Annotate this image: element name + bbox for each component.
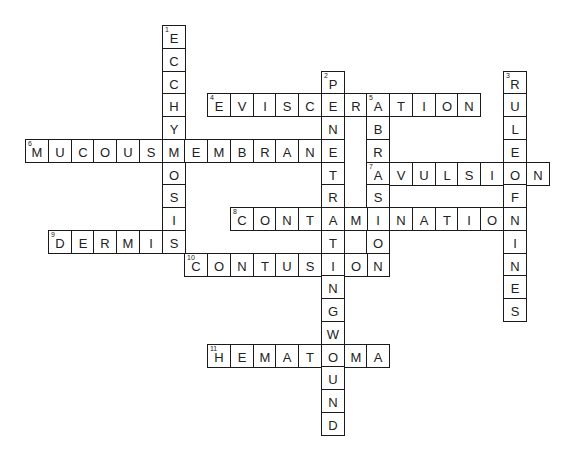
- crossword-cell[interactable]: T: [321, 162, 345, 186]
- crossword-cell[interactable]: 10C: [184, 253, 208, 277]
- crossword-cell[interactable]: R: [93, 230, 117, 254]
- crossword-cell[interactable]: S: [457, 162, 481, 186]
- crossword-cell[interactable]: I: [503, 230, 527, 254]
- crossword-cell[interactable]: I: [162, 207, 186, 231]
- crossword-cell[interactable]: N: [230, 253, 254, 277]
- crossword-cell[interactable]: T: [321, 230, 345, 254]
- crossword-cell[interactable]: N: [457, 93, 481, 117]
- crossword-cell[interactable]: U: [48, 139, 72, 163]
- crossword-cell[interactable]: N: [298, 139, 322, 163]
- crossword-cell[interactable]: A: [412, 207, 436, 231]
- crossword-cell[interactable]: Y: [162, 116, 186, 140]
- crossword-cell[interactable]: S: [162, 184, 186, 208]
- crossword-cell[interactable]: S: [298, 253, 322, 277]
- crossword-cell[interactable]: V: [230, 93, 254, 117]
- crossword-cell[interactable]: M: [344, 207, 368, 231]
- crossword-cell[interactable]: E: [321, 93, 345, 117]
- crossword-cell[interactable]: C: [71, 139, 95, 163]
- crossword-cell[interactable]: S: [366, 184, 390, 208]
- crossword-cell[interactable]: O: [93, 139, 117, 163]
- crossword-cell[interactable]: R: [321, 184, 345, 208]
- crossword-cell[interactable]: T: [389, 93, 413, 117]
- crossword-cell[interactable]: O: [253, 207, 277, 231]
- crossword-cell[interactable]: 3R: [503, 71, 527, 95]
- crossword-cell[interactable]: 9D: [48, 230, 72, 254]
- crossword-cell[interactable]: O: [503, 162, 527, 186]
- crossword-cell[interactable]: E: [184, 139, 208, 163]
- crossword-cell[interactable]: A: [275, 344, 299, 368]
- crossword-cell[interactable]: T: [253, 253, 277, 277]
- crossword-cell[interactable]: 2P: [321, 71, 345, 95]
- crossword-cell[interactable]: N: [321, 389, 345, 413]
- crossword-cell[interactable]: M: [162, 139, 186, 163]
- crossword-cell[interactable]: E: [503, 275, 527, 299]
- crossword-cell[interactable]: I: [412, 93, 436, 117]
- crossword-cell[interactable]: D: [321, 412, 345, 436]
- crossword-cell[interactable]: M: [116, 230, 140, 254]
- crossword-cell[interactable]: O: [435, 93, 459, 117]
- crossword-cell[interactable]: I: [366, 207, 390, 231]
- crossword-cell[interactable]: O: [162, 162, 186, 186]
- crossword-cell[interactable]: S: [139, 139, 163, 163]
- crossword-cell[interactable]: U: [412, 162, 436, 186]
- crossword-cell[interactable]: I: [253, 93, 277, 117]
- crossword-cell[interactable]: N: [321, 116, 345, 140]
- crossword-cell[interactable]: O: [344, 253, 368, 277]
- crossword-cell[interactable]: U: [503, 93, 527, 117]
- crossword-cell[interactable]: A: [321, 207, 345, 231]
- crossword-cell[interactable]: O: [480, 207, 504, 231]
- crossword-cell[interactable]: I: [480, 162, 504, 186]
- crossword-cell[interactable]: R: [253, 139, 277, 163]
- crossword-cell[interactable]: S: [503, 298, 527, 322]
- crossword-cell[interactable]: T: [435, 207, 459, 231]
- crossword-cell[interactable]: N: [526, 162, 550, 186]
- crossword-cell[interactable]: N: [366, 253, 390, 277]
- crossword-cell[interactable]: N: [503, 207, 527, 231]
- crossword-cell[interactable]: 7A: [366, 162, 390, 186]
- crossword-cell[interactable]: V: [389, 162, 413, 186]
- crossword-cell[interactable]: T: [298, 344, 322, 368]
- crossword-cell[interactable]: B: [230, 139, 254, 163]
- crossword-cell[interactable]: A: [366, 344, 390, 368]
- crossword-cell[interactable]: 5A: [366, 93, 390, 117]
- crossword-cell[interactable]: M: [344, 344, 368, 368]
- crossword-cell[interactable]: R: [344, 93, 368, 117]
- crossword-cell[interactable]: O: [366, 230, 390, 254]
- crossword-cell[interactable]: I: [321, 253, 345, 277]
- crossword-cell[interactable]: N: [321, 275, 345, 299]
- crossword-cell[interactable]: G: [321, 298, 345, 322]
- crossword-cell[interactable]: 11H: [207, 344, 231, 368]
- crossword-cell[interactable]: 1E: [162, 25, 186, 49]
- crossword-cell[interactable]: R: [366, 139, 390, 163]
- crossword-cell[interactable]: U: [116, 139, 140, 163]
- crossword-cell[interactable]: T: [298, 207, 322, 231]
- crossword-cell[interactable]: E: [321, 139, 345, 163]
- crossword-cell[interactable]: S: [275, 93, 299, 117]
- crossword-cell[interactable]: O: [207, 253, 231, 277]
- crossword-cell[interactable]: W: [321, 321, 345, 345]
- crossword-cell[interactable]: L: [435, 162, 459, 186]
- crossword-cell[interactable]: 6M: [25, 139, 49, 163]
- crossword-cell[interactable]: C: [298, 93, 322, 117]
- crossword-cell[interactable]: B: [366, 116, 390, 140]
- crossword-cell[interactable]: N: [275, 207, 299, 231]
- crossword-cell[interactable]: 8C: [230, 207, 254, 231]
- crossword-cell[interactable]: E: [230, 344, 254, 368]
- crossword-cell[interactable]: O: [321, 344, 345, 368]
- crossword-cell[interactable]: C: [162, 71, 186, 95]
- crossword-cell[interactable]: U: [321, 366, 345, 390]
- crossword-cell[interactable]: L: [503, 116, 527, 140]
- crossword-cell[interactable]: M: [253, 344, 277, 368]
- crossword-cell[interactable]: E: [503, 139, 527, 163]
- crossword-cell[interactable]: I: [457, 207, 481, 231]
- crossword-cell[interactable]: S: [162, 230, 186, 254]
- crossword-cell[interactable]: U: [275, 253, 299, 277]
- crossword-cell[interactable]: A: [275, 139, 299, 163]
- crossword-cell[interactable]: H: [162, 93, 186, 117]
- crossword-cell[interactable]: E: [71, 230, 95, 254]
- crossword-cell[interactable]: C: [162, 48, 186, 72]
- crossword-cell[interactable]: M: [207, 139, 231, 163]
- crossword-cell[interactable]: N: [389, 207, 413, 231]
- crossword-cell[interactable]: F: [503, 184, 527, 208]
- crossword-cell[interactable]: N: [503, 253, 527, 277]
